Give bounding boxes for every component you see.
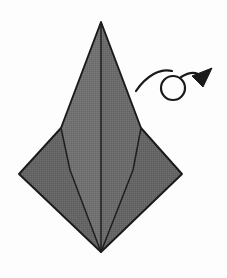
origami-diagram-canvas — [0, 0, 227, 278]
origami-diagram-figure: Origami fold step diagram kite-on-diamon… — [0, 0, 227, 278]
